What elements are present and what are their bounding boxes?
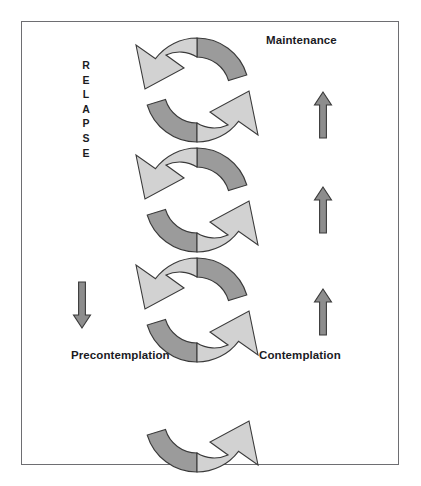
label-maintenance: Maintenance — [266, 34, 337, 46]
relapse-letter-a: A — [76, 102, 96, 117]
relapse-letter-r: R — [76, 58, 96, 73]
figure-root: Maintenance Precontemplation Contemplati… — [0, 0, 421, 486]
relapse-letter-e2: E — [76, 146, 96, 161]
label-contemplation: Contemplation — [259, 349, 341, 361]
label-precontemplation: Precontemplation — [71, 349, 170, 361]
relapse-letter-l: L — [76, 87, 96, 102]
relapse-letter-p: P — [76, 116, 96, 131]
relapse-letter-e1: E — [76, 73, 96, 88]
label-relapse-vertical: R E L A P S E — [76, 58, 96, 160]
relapse-letter-s: S — [76, 131, 96, 146]
